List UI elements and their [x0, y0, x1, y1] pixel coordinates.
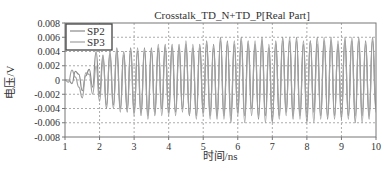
x-tick-label: 7: [270, 141, 275, 152]
legend-label-sp3: SP3: [87, 36, 105, 48]
x-tick-label: 4: [166, 141, 171, 152]
x-tick-label: 1: [63, 141, 68, 152]
chart-svg: Crosstalk_TD_N+TD_P[Real Part] 0.0080.00…: [0, 0, 392, 171]
x-tick-label: 10: [371, 141, 381, 152]
y-tick-label: -0.006: [34, 117, 60, 128]
y-axis-ticks: 0.0080.0060.0040.0020-0.002-0.004-0.006-…: [34, 18, 65, 143]
y-tick-label: -0.004: [34, 103, 60, 114]
y-tick-label: 0.002: [38, 60, 61, 71]
y-tick-label: 0.004: [38, 46, 61, 57]
x-tick-label: 9: [339, 141, 344, 152]
y-tick-label: -0.002: [34, 89, 60, 100]
legend: SP2SP3: [66, 24, 112, 50]
x-tick-label: 3: [132, 141, 137, 152]
y-tick-label: 0.008: [38, 18, 61, 29]
chart-title: Crosstalk_TD_N+TD_P[Real Part]: [154, 9, 310, 21]
y-tick-label: -0.008: [34, 132, 60, 143]
x-axis-label: 时间/ns: [203, 150, 238, 162]
x-tick-label: 8: [304, 141, 309, 152]
y-tick-label: 0.006: [38, 32, 61, 43]
y-tick-label: 0: [55, 75, 60, 86]
crosstalk-chart: Crosstalk_TD_N+TD_P[Real Part] 0.0080.00…: [0, 0, 392, 171]
y-axis-label: 电压/V: [4, 65, 16, 98]
x-tick-label: 2: [97, 141, 102, 152]
